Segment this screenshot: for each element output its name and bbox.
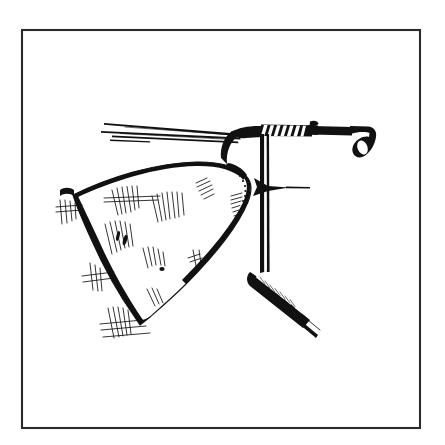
artboard (0, 0, 445, 445)
vertical-shank (260, 134, 270, 273)
ink-drawing-svg (0, 0, 445, 445)
illustration-page: Artificial Fishing Fly pen-and-ink line … (0, 0, 445, 445)
